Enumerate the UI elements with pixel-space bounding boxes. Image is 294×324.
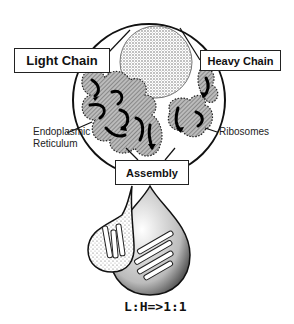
assembly-label: Assembly [115,160,189,185]
light-chain-label: Light Chain [14,48,110,73]
small-vesicle [88,186,134,272]
heavy-chain-text: Heavy Chain [207,55,273,67]
ratio-label: L:H=>1:1 [124,299,187,314]
heavy-chain-label: Heavy Chain [200,50,281,71]
ribosomes-annotation: Ribosomes [219,126,269,138]
assembly-text: Assembly [126,167,178,179]
endoplasmic-line2: Reticulum [33,138,90,150]
light-chain-text: Light Chain [26,53,98,68]
endoplasmic-reticulum-annotation: Endoplasmic Reticulum [33,126,90,150]
endoplasmic-line1: Endoplasmic [33,126,90,138]
